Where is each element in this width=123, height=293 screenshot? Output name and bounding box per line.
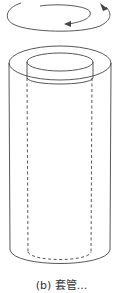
inner-cylinder	[27, 53, 93, 260]
rotation-arrow-icon	[7, 3, 110, 31]
figure-caption: (b) 套管...	[0, 279, 123, 293]
outer-cylinder	[9, 46, 111, 264]
